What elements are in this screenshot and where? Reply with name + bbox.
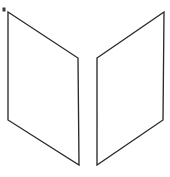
- corner-speck-mark: [3, 8, 6, 12]
- right-panel-shape: [97, 12, 164, 165]
- line-drawing-figure: [0, 0, 170, 177]
- left-panel-shape: [8, 12, 79, 165]
- figure-canvas: [0, 0, 170, 177]
